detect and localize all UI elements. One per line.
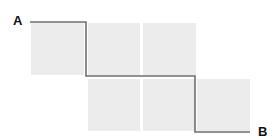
grid-squares (31, 23, 250, 131)
point-a-label: A (13, 14, 22, 27)
grid-square (143, 79, 195, 131)
grid-square (143, 23, 196, 75)
grid-square (31, 23, 84, 75)
grid-square (88, 23, 140, 75)
grid-square (88, 79, 140, 131)
point-b-label: B (258, 125, 267, 138)
grid-path-diagram (0, 0, 280, 140)
grid-square (197, 79, 250, 131)
